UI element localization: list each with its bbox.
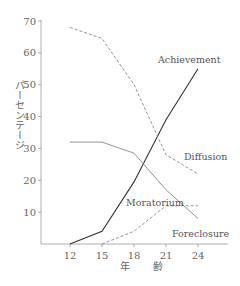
y-tick-label: 30	[23, 143, 36, 154]
x-axis-label: 年 齢	[120, 258, 173, 273]
tick-labels: 102030405060701215182124	[23, 16, 204, 262]
series-achievement-line	[70, 69, 198, 244]
label-diffusion: Diffusion	[184, 151, 227, 162]
label-foreclosure: Foreclosure	[172, 228, 230, 239]
x-tick-label: 15	[96, 250, 109, 261]
series-labels: AchievementDiffusionMoratoriumForeclosur…	[126, 54, 230, 239]
y-tick-label: 40	[23, 111, 36, 122]
line-chart: 102030405060701215182124 AchievementDiff…	[0, 0, 240, 286]
y-tick-label: 60	[23, 47, 36, 58]
label-achievement: Achievement	[157, 54, 221, 65]
y-tick-label: 50	[23, 79, 36, 90]
series-diffusion-line	[70, 27, 198, 174]
y-tick-label: 20	[23, 175, 36, 186]
x-tick-label: 12	[64, 250, 77, 261]
x-tick-label: 24	[192, 250, 205, 261]
y-tick-label: 70	[23, 16, 36, 27]
y-axis-label: パーセンテージ	[11, 80, 23, 150]
label-moratorium: Moratorium	[126, 197, 184, 208]
y-tick-label: 10	[23, 207, 36, 218]
